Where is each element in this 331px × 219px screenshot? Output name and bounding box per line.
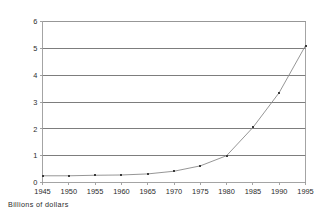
x-tick-label-1945: 1945 bbox=[34, 187, 50, 196]
y-axis-ticks: 0123456 bbox=[33, 17, 42, 187]
y-tick-label-0: 0 bbox=[33, 178, 37, 187]
data-point-1965 bbox=[147, 173, 149, 175]
x-tick-label-1950: 1950 bbox=[61, 187, 77, 196]
line-chart-plot: 0123456194519501955196019651970197519801… bbox=[0, 0, 331, 219]
gridlines bbox=[43, 22, 306, 156]
x-tick-label-1975: 1975 bbox=[192, 187, 208, 196]
data-point-1995 bbox=[305, 45, 307, 47]
x-tick-label-1985: 1985 bbox=[245, 187, 261, 196]
x-tick-label-1955: 1955 bbox=[87, 187, 103, 196]
y-tick-label-1: 1 bbox=[33, 151, 37, 160]
y-tick-label-2: 2 bbox=[33, 125, 37, 134]
chart-caption: Billions of dollars bbox=[8, 200, 69, 209]
x-tick-label-1965: 1965 bbox=[139, 187, 155, 196]
y-tick-label-4: 4 bbox=[33, 71, 37, 80]
y-tick-label-5: 5 bbox=[33, 44, 37, 53]
y-tick-label-3: 3 bbox=[33, 98, 37, 107]
chart-figure: 0123456194519501955196019651970197519801… bbox=[0, 0, 331, 219]
data-point-1970 bbox=[173, 170, 175, 172]
data-point-1985 bbox=[252, 126, 254, 128]
x-tick-label-1980: 1980 bbox=[218, 187, 234, 196]
data-point-1990 bbox=[278, 92, 280, 94]
data-series-line bbox=[43, 46, 306, 176]
data-point-1945 bbox=[42, 175, 44, 177]
data-point-1975 bbox=[199, 165, 201, 167]
y-tick-label-6: 6 bbox=[33, 17, 37, 26]
x-tick-label-1990: 1990 bbox=[271, 187, 287, 196]
x-tick-label-1960: 1960 bbox=[113, 187, 129, 196]
data-point-1960 bbox=[120, 174, 122, 176]
data-point-1955 bbox=[94, 174, 96, 176]
data-point-markers bbox=[42, 45, 307, 177]
x-tick-label-1995: 1995 bbox=[297, 187, 313, 196]
data-point-1980 bbox=[226, 155, 228, 157]
data-point-1950 bbox=[68, 175, 70, 177]
x-axis-ticks: 1945195019551960196519701975198019851990… bbox=[34, 183, 313, 196]
x-tick-label-1970: 1970 bbox=[166, 187, 182, 196]
